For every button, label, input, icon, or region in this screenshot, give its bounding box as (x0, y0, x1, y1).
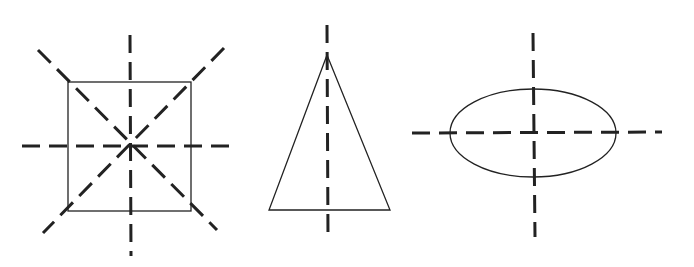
ellipse-vertical-axis (533, 33, 535, 237)
symmetry-diagram (0, 0, 694, 267)
square-diagonal-axis-2 (43, 48, 224, 233)
triangle-figure (269, 25, 390, 238)
triangle-vertical-axis (327, 25, 328, 238)
square-figure (22, 35, 238, 256)
square-diagonal-axis-1 (38, 50, 217, 230)
triangle-shape (269, 55, 390, 210)
ellipse-figure (412, 33, 662, 237)
ellipse-horizontal-axis (412, 132, 662, 133)
